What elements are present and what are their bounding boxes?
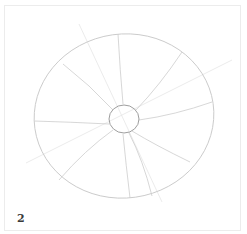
outer-ellipse bbox=[23, 22, 224, 209]
construction-lines bbox=[26, 24, 232, 202]
step-number-label: 2 bbox=[17, 212, 25, 225]
sketch-drawing bbox=[0, 0, 247, 234]
